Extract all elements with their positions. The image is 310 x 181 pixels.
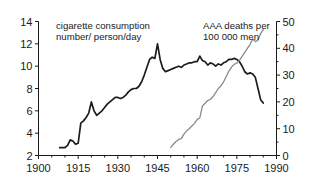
y-axis-left-tick-label: 6 — [26, 105, 32, 117]
chart-container: 2468101214010203040501900191519301945196… — [0, 0, 310, 181]
y-axis-right-tick-label: 40 — [283, 42, 295, 54]
x-axis-tick-label: 1930 — [106, 162, 130, 174]
left-series-annotation-line1: cigarette consumption — [56, 20, 150, 31]
y-axis-right-tick-label: 30 — [283, 69, 295, 81]
y-axis-right-tick-label: 50 — [283, 16, 295, 28]
x-axis-tick-label: 1915 — [66, 162, 90, 174]
x-axis-tick-label: 1975 — [225, 162, 249, 174]
y-axis-right-tick-label: 20 — [283, 96, 295, 108]
y-axis-left-tick-label: 10 — [20, 60, 32, 72]
right-series-annotation-line2: 100 000 men — [203, 31, 259, 42]
x-axis-tick-label: 1900 — [26, 162, 50, 174]
y-axis-left-tick-label: 8 — [26, 83, 32, 95]
series-line-cigarette-consumption — [60, 44, 264, 148]
y-axis-left-tick-label: 4 — [26, 127, 32, 139]
chart-canvas: 2468101214010203040501900191519301945196… — [0, 0, 310, 181]
left-series-annotation-line2: number/ person/day — [56, 31, 142, 42]
series-line-aaa-deaths — [171, 30, 264, 148]
right-series-annotation-line1: AAA deaths per — [203, 20, 270, 31]
y-axis-right-tick-label: 0 — [283, 150, 289, 162]
x-axis-tick-label: 1960 — [185, 162, 209, 174]
y-axis-left-tick-label: 2 — [26, 150, 32, 162]
x-axis-tick-label: 1990 — [264, 162, 288, 174]
y-axis-left-tick-label: 12 — [20, 38, 32, 50]
y-axis-left-tick-label: 14 — [20, 16, 32, 28]
y-axis-right-tick-label: 10 — [283, 123, 295, 135]
x-axis-tick-label: 1945 — [145, 162, 169, 174]
